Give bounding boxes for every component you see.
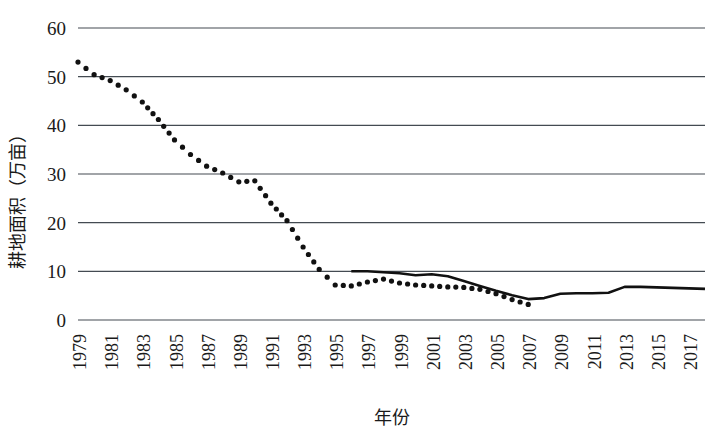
x-tick-label: 2015 <box>649 334 669 370</box>
data-point-marker <box>212 167 217 172</box>
data-point-marker <box>196 158 201 163</box>
data-point-marker <box>349 283 354 288</box>
solid-series-plot <box>351 271 705 299</box>
data-point-marker <box>116 83 121 88</box>
x-axis-tick-labels: 1979198119831985198719891991199319951997… <box>70 334 701 370</box>
data-point-marker <box>526 302 531 307</box>
x-tick-label: 1999 <box>392 334 412 370</box>
data-point-marker <box>290 227 295 232</box>
x-tick-label: 2005 <box>488 334 508 370</box>
data-point-marker <box>405 281 410 286</box>
cultivated-land-area-line-chart: 0102030405060 19791981198319851987198919… <box>0 0 720 437</box>
data-point-marker <box>518 299 523 304</box>
data-point-marker <box>124 87 129 92</box>
data-point-marker <box>397 280 402 285</box>
data-point-marker <box>167 131 172 136</box>
data-point-marker <box>445 284 450 289</box>
x-tick-label: 1997 <box>359 334 379 370</box>
data-point-marker <box>373 278 378 283</box>
data-point-marker <box>311 259 316 264</box>
data-point-marker <box>284 218 289 223</box>
data-point-marker <box>333 282 338 287</box>
data-point-marker <box>132 93 137 98</box>
x-tick-label: 2003 <box>456 334 476 370</box>
y-tick-label: 60 <box>47 18 66 39</box>
data-point-marker <box>100 75 105 80</box>
data-point-marker <box>252 178 257 183</box>
x-tick-label: 1981 <box>102 334 122 370</box>
data-point-marker <box>228 175 233 180</box>
y-tick-label: 50 <box>47 67 66 88</box>
data-point-marker <box>295 236 300 241</box>
data-point-marker <box>421 283 426 288</box>
data-point-marker <box>83 66 88 71</box>
data-point-marker <box>306 252 311 257</box>
data-point-marker <box>263 193 268 198</box>
data-point-marker <box>274 206 279 211</box>
y-tick-label: 0 <box>57 310 67 331</box>
data-point-marker <box>453 285 458 290</box>
data-point-marker <box>279 212 284 217</box>
x-tick-label: 1993 <box>295 334 315 370</box>
x-tick-label: 2013 <box>617 334 637 370</box>
data-point-marker <box>108 78 113 83</box>
data-point-marker <box>156 117 161 122</box>
data-point-marker <box>188 152 193 157</box>
y-tick-label: 40 <box>47 115 66 136</box>
data-point-marker <box>317 267 322 272</box>
chart-container: 0102030405060 19791981198319851987198919… <box>0 0 720 437</box>
data-point-marker <box>268 201 273 206</box>
dotted-series-plot <box>75 60 530 308</box>
data-point-marker <box>357 281 362 286</box>
solid-series-line <box>351 271 705 299</box>
data-point-marker <box>150 111 155 116</box>
x-tick-label: 2009 <box>552 334 572 370</box>
data-point-marker <box>161 124 166 129</box>
data-point-marker <box>461 285 466 290</box>
x-tick-label: 1985 <box>167 334 187 370</box>
x-tick-label: 1989 <box>231 334 251 370</box>
data-point-marker <box>381 277 386 282</box>
data-point-marker <box>389 279 394 284</box>
data-point-marker <box>180 145 185 150</box>
y-tick-label: 30 <box>47 164 66 185</box>
data-point-marker <box>325 275 330 280</box>
y-tick-label: 10 <box>47 261 66 282</box>
x-tick-label: 2011 <box>585 334 605 369</box>
data-point-marker <box>92 72 97 77</box>
data-point-marker <box>140 99 145 104</box>
data-point-marker <box>437 284 442 289</box>
x-tick-label: 1983 <box>134 334 154 370</box>
x-tick-label: 2001 <box>424 334 444 370</box>
data-point-marker <box>365 279 370 284</box>
x-tick-label: 1991 <box>263 334 283 370</box>
data-point-marker <box>244 179 249 184</box>
gridlines <box>78 28 705 320</box>
data-point-marker <box>172 137 177 142</box>
x-axis-title: 年份 <box>374 408 410 428</box>
x-tick-label: 2007 <box>520 334 540 370</box>
data-point-marker <box>220 170 225 175</box>
x-tick-label: 1995 <box>327 334 347 370</box>
data-point-marker <box>341 283 346 288</box>
data-point-marker <box>204 164 209 169</box>
x-tick-label: 1987 <box>199 334 219 370</box>
data-point-marker <box>429 283 434 288</box>
y-tick-label: 20 <box>47 213 66 234</box>
data-point-marker <box>469 286 474 291</box>
data-point-marker <box>509 297 514 302</box>
y-axis-tick-labels: 0102030405060 <box>47 18 66 331</box>
data-point-marker <box>145 105 150 110</box>
data-point-marker <box>413 282 418 287</box>
y-axis-title: 耕地面积（万亩） <box>8 125 28 269</box>
data-point-marker <box>258 186 263 191</box>
x-tick-label: 2017 <box>681 334 701 370</box>
x-tick-label: 1979 <box>70 334 90 370</box>
data-point-marker <box>75 60 80 65</box>
data-point-marker <box>236 179 241 184</box>
data-point-marker <box>301 244 306 249</box>
